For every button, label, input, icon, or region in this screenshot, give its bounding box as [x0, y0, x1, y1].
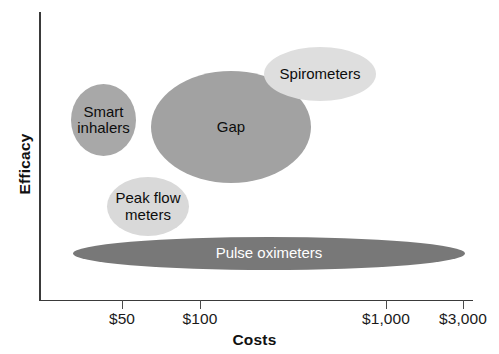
x-axis-tick-100	[200, 300, 201, 309]
bubble-label-smart-inhalers: Smart inhalers	[77, 104, 130, 136]
bubble-label-spirometers: Spirometers	[280, 66, 361, 82]
bubble-label-peak-flow-meters: Peak flow meters	[115, 190, 180, 222]
y-axis-title: Efficacy	[16, 119, 34, 209]
bubble-smart-inhalers[interactable]: Smart inhalers	[71, 84, 136, 156]
x-axis-tick-1000	[386, 300, 387, 309]
bubble-peak-flow-meters[interactable]: Peak flow meters	[107, 177, 189, 236]
y-axis-line	[39, 12, 41, 301]
x-axis-tick-label-100: $100	[183, 310, 218, 328]
x-axis-tick-label-3000: $3,000	[439, 310, 487, 328]
x-axis-title: Costs	[0, 331, 499, 349]
bubble-pulse-oximeters[interactable]: Pulse oximeters	[73, 237, 465, 270]
x-axis-tick-50	[122, 300, 123, 309]
bubble-chart: $50 $100 $1,000 $3,000 Efficacy Costs Ga…	[0, 0, 499, 354]
bubble-label-pulse-oximeters: Pulse oximeters	[216, 245, 323, 261]
x-axis-tick-label-1000: $1,000	[362, 310, 410, 328]
bubble-spirometers[interactable]: Spirometers	[264, 47, 376, 101]
bubble-label-gap: Gap	[217, 119, 245, 135]
x-axis-line	[39, 300, 473, 302]
x-axis-tick-3000	[463, 300, 464, 309]
x-axis-tick-label-50: $50	[109, 310, 135, 328]
